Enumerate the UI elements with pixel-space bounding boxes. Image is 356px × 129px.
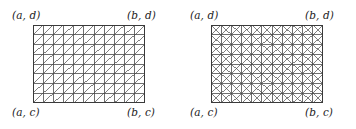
mesh-diagonal [53,93,63,103]
mesh-diagonal [84,54,94,64]
mesh-diagonal [135,74,145,84]
mesh-diagonal [125,64,135,74]
mesh-diagonal [84,84,94,94]
mesh-diagonal [135,54,145,64]
mesh-diagonal [104,84,114,94]
mesh-diagonal [125,25,135,35]
mesh-diagonal [64,45,74,55]
mesh-diagonal [114,54,124,64]
mesh-diagonal [64,54,74,64]
mesh-diagonal [53,45,63,55]
mesh-diagonal [84,93,94,103]
mesh-diagonal [43,93,53,103]
mesh-diagonal [94,35,104,45]
figure-pair: (a, d) (b, d) (a, c) (b, c) (a, d) (b, d… [0,0,356,129]
mesh-diagonal [64,35,74,45]
mesh-diagonal [74,74,84,84]
mesh-diagonal [135,64,145,74]
mesh-diagonal [33,25,43,35]
label-top-right: (b, d) [305,10,334,21]
mesh-diagonal [74,93,84,103]
label-bottom-right: (b, c) [127,107,155,118]
mesh-diagonal [94,64,104,74]
mesh-diagonal [94,25,104,35]
mesh-diagonal [94,54,104,64]
mesh-diagonal [33,84,43,94]
panel-right-crossed-mesh: (a, d) (b, d) (a, c) (b, c) [178,0,356,129]
label-bottom-right: (b, c) [305,107,333,118]
mesh-diagonal [43,45,53,55]
mesh-diagonal [104,45,114,55]
mesh-diagonal [135,93,145,103]
mesh-diagonal [74,45,84,55]
mesh-diagonal [74,25,84,35]
mesh-diagonal [114,25,124,35]
mesh-diagonal [74,64,84,74]
mesh-diagonal [104,35,114,45]
mesh-diagonal [33,54,43,64]
mesh-diagonal [33,64,43,74]
mesh-right-svg [211,25,323,103]
mesh-diagonal [53,64,63,74]
mesh-diagonal [114,45,124,55]
mesh-diagonal [104,74,114,84]
mesh-diagonal [74,84,84,94]
mesh-diagonal [135,45,145,55]
mesh-diagonal [94,74,104,84]
mesh-diagonal [43,25,53,35]
mesh-diagonal [125,54,135,64]
mesh-diagonal [64,25,74,35]
mesh-diagonal [104,25,114,35]
label-top-right: (b, d) [127,10,156,21]
mesh-diagonal [64,93,74,103]
label-top-left: (a, d) [12,10,40,21]
mesh-diagonal [33,93,43,103]
mesh-diagonal [84,74,94,84]
mesh-diagonal [104,64,114,74]
mesh-left-svg [33,25,145,103]
mesh-diagonal [53,84,63,94]
mesh-diagonal [43,74,53,84]
mesh-diagonal [33,45,43,55]
mesh-diagonal [125,35,135,45]
mesh-diagonal [94,93,104,103]
mesh-diagonal [135,84,145,94]
mesh-diagonal [43,84,53,94]
mesh-diagonal [114,35,124,45]
label-bottom-left: (a, c) [12,107,40,118]
mesh-diagonal [43,64,53,74]
mesh-diagonal [94,45,104,55]
mesh-diagonal [125,45,135,55]
mesh-diagonal [53,25,63,35]
label-bottom-left: (a, c) [190,107,218,118]
mesh-diagonal [43,54,53,64]
mesh-diagonal [84,45,94,55]
mesh-diagonal [135,35,145,45]
mesh-diagonal [84,25,94,35]
mesh-diagonal [104,54,114,64]
mesh-right [211,25,323,103]
mesh-left [33,25,145,103]
mesh-diagonal [64,64,74,74]
mesh-diagonal [84,35,94,45]
mesh-diagonal [114,93,124,103]
mesh-diagonal [125,74,135,84]
mesh-diagonal [53,54,63,64]
mesh-diagonal [114,84,124,94]
mesh-diagonal [43,35,53,45]
mesh-diagonal [104,93,114,103]
mesh-diagonal [94,84,104,94]
mesh-diagonal [114,74,124,84]
mesh-diagonal [74,54,84,64]
mesh-diagonal [125,84,135,94]
mesh-diagonal [53,35,63,45]
mesh-diagonal [114,64,124,74]
mesh-diagonal [53,74,63,84]
mesh-diagonal [33,74,43,84]
panel-left-diagonal-mesh: (a, d) (b, d) (a, c) (b, c) [0,0,178,129]
mesh-diagonal [64,84,74,94]
mesh-diagonal [33,35,43,45]
label-top-left: (a, d) [190,10,218,21]
mesh-diagonal [84,64,94,74]
mesh-diagonal [74,35,84,45]
